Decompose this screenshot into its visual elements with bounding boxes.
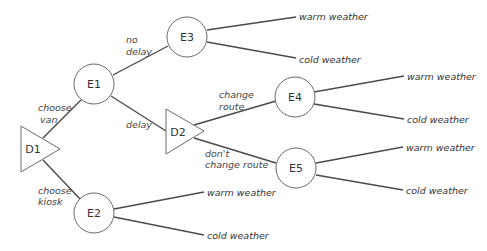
edge-e3-warm [207,17,296,30]
leaf-e4-cold-weather: cold weather [407,114,470,125]
node-label-e2: E2 [87,207,101,220]
edge-label-dont-change-route-2: change route [205,159,268,170]
edge-label-choose-kiosk-1: choose [38,185,72,196]
leaf-e3-cold-weather: cold weather [299,54,362,65]
node-label-e5: E5 [289,162,303,175]
edge-e5-warm [316,147,403,163]
edge-e5-cold [316,175,403,190]
edge-label-dont-change-route-1: don't [205,148,230,159]
node-label-d2: D2 [170,126,185,139]
leaf-e4-warm-weather: warm weather [407,71,477,82]
edge-label-no-delay-1: no [126,34,138,45]
leaf-e5-cold-weather: cold weather [406,185,469,196]
node-label-d1: D1 [25,143,40,156]
edge-e4-warm [314,76,404,92]
edge-e4-cold [314,104,404,119]
leaf-e5-warm-weather: warm weather [406,142,476,153]
edge-label-choose-van-1: choose [38,102,72,113]
edge-label-choose-kiosk-2: kiosk [38,196,63,207]
edge-e3-cold [207,42,296,58]
node-label-e1: E1 [87,78,101,91]
edge-label-choose-van-2: van [40,114,57,125]
decision-tree-diagram: D1 E1 E2 E3 D2 E4 E5 choose van choose k… [0,0,487,251]
edge-label-change-route-2: route [219,101,244,112]
edge-label-delay: delay [126,119,152,130]
leaf-e2-warm-weather: warm weather [207,187,277,198]
edge-label-change-route-1: change [219,89,254,100]
node-label-e4: E4 [288,91,302,104]
edge-label-no-delay-2: delay [126,46,152,57]
edge-e2-warm [114,192,204,209]
leaf-e3-warm-weather: warm weather [299,11,369,22]
edge-e2-cold [114,217,204,235]
node-label-e3: E3 [180,31,194,44]
leaf-e2-cold-weather: cold weather [207,230,270,241]
